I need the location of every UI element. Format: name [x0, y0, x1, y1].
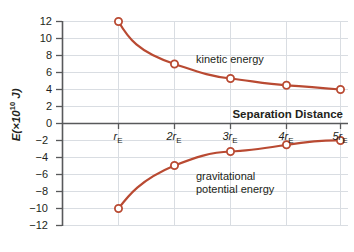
xtick-label-1re: rE	[98, 131, 138, 146]
xtick-label-2re: 2rE	[154, 131, 194, 146]
kinetic-energy-annotation: kinetic energy	[196, 53, 264, 66]
xtick-label-3re: 3rE	[210, 131, 250, 146]
ytick-label: 8	[26, 50, 52, 61]
data-point	[115, 18, 122, 25]
ytick-label: −4	[22, 152, 48, 163]
data-point	[171, 60, 178, 67]
ytick-label: −10	[22, 203, 48, 214]
data-point	[171, 162, 178, 169]
ytick-label: −12	[22, 220, 48, 231]
ytick-label: 0	[26, 118, 52, 129]
ytick-label: 6	[26, 67, 52, 78]
ytick-label: 12	[26, 16, 52, 27]
xtick-subscript: E	[117, 136, 122, 145]
gravitational-potential-energy-annotation: gravitational potential energy	[196, 170, 274, 196]
y-axis-unit-open: (×10	[10, 110, 22, 133]
y-axis-ticks	[56, 22, 62, 226]
xtick-subscript: E	[288, 136, 293, 145]
y-axis-unit-close: J)	[10, 89, 22, 102]
data-point	[227, 148, 234, 155]
plot-area	[0, 0, 354, 252]
xtick-value: 4r	[278, 130, 288, 142]
gpe-annotation-line1: gravitational	[196, 170, 274, 183]
data-point	[337, 86, 344, 93]
ytick-label: −8	[22, 186, 48, 197]
xtick-subscript: E	[342, 136, 347, 145]
y-axis-exponent: 10	[8, 102, 17, 110]
x-axis-ticks	[119, 124, 341, 130]
y-axis-title: E(×1010 J)	[8, 73, 22, 157]
ytick-label: 2	[26, 101, 52, 112]
data-point	[227, 75, 234, 82]
ytick-label: 10	[26, 33, 52, 44]
xtick-value: 3r	[222, 130, 232, 142]
ytick-label: −6	[22, 169, 48, 180]
xtick-value: 2r	[166, 130, 176, 142]
xtick-subscript: E	[232, 136, 237, 145]
y-axis-symbol: E	[10, 134, 22, 142]
xtick-label-4re: 4rE	[266, 131, 306, 146]
data-point	[115, 205, 122, 212]
energy-vs-separation-chart: 12 10 8 6 4 2 0 −2 −4 −6 −8 −10 −12 rE 2…	[0, 0, 354, 252]
data-point	[283, 82, 290, 89]
ytick-label: 4	[26, 84, 52, 95]
ytick-label: −2	[22, 135, 48, 146]
x-axis-title: Separation Distance	[232, 108, 343, 120]
xtick-value: 5r	[332, 130, 342, 142]
gpe-annotation-line2: potential energy	[196, 183, 274, 196]
xtick-subscript: E	[176, 136, 181, 145]
xtick-label-5re: 5rE	[320, 131, 354, 146]
